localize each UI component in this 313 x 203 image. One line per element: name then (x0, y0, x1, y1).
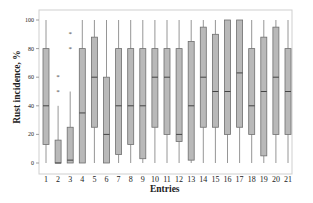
box-entry-11 (164, 20, 170, 163)
box (152, 49, 158, 128)
box-entry-12 (176, 20, 182, 163)
x-tick-label: 2 (56, 175, 60, 184)
box-entry-1 (43, 20, 49, 163)
box-entry-8 (128, 20, 134, 163)
box (176, 49, 182, 142)
x-tick-label: 8 (129, 175, 133, 184)
box (237, 20, 243, 127)
x-tick-label: 11 (163, 175, 171, 184)
x-axis-label: Entries (150, 184, 180, 194)
box (273, 27, 279, 134)
box-entry-20 (273, 20, 279, 163)
box (67, 127, 73, 163)
box-entry-21 (285, 20, 291, 163)
box-plot: 020406080100 123456789101112131415161718… (0, 0, 313, 203)
x-tick-label: 20 (272, 175, 280, 184)
y-tick-label: 0 (31, 160, 34, 166)
outlier-marker: * (56, 88, 60, 96)
boxes: **** (43, 20, 291, 163)
x-axis: 123456789101112131415161718192021 (44, 175, 292, 184)
box (55, 140, 61, 163)
x-tick-label: 9 (141, 175, 145, 184)
y-axis: 020406080100 (25, 17, 39, 166)
box (164, 49, 170, 135)
y-tick-label: 20 (28, 131, 34, 137)
x-tick-label: 3 (68, 175, 72, 184)
x-tick-label: 15 (211, 175, 219, 184)
box-entry-5 (91, 20, 97, 163)
box (225, 20, 231, 134)
box-entry-17 (237, 20, 243, 163)
x-tick-label: 5 (92, 175, 96, 184)
x-tick-label: 13 (187, 175, 195, 184)
box-entry-4 (79, 20, 85, 163)
x-tick-label: 12 (175, 175, 183, 184)
box (140, 49, 146, 159)
box-entry-2: ** (55, 73, 61, 163)
x-tick-label: 10 (151, 175, 159, 184)
outlier-marker: * (68, 30, 72, 38)
y-tick-label: 100 (25, 17, 34, 23)
box (128, 49, 134, 145)
box (91, 37, 97, 127)
x-tick-label: 1 (44, 175, 48, 184)
box-entry-14 (200, 20, 206, 163)
x-tick-label: 6 (105, 175, 109, 184)
box-entry-13 (188, 20, 194, 163)
box (188, 41, 194, 160)
outlier-marker: * (68, 45, 72, 53)
y-tick-label: 60 (28, 74, 34, 80)
box-entry-9 (140, 20, 146, 163)
box-entry-6 (104, 20, 110, 163)
box (249, 49, 255, 135)
box (261, 37, 267, 156)
box-entry-15 (212, 20, 218, 163)
x-tick-label: 21 (284, 175, 292, 184)
x-tick-label: 18 (248, 175, 256, 184)
outlier-marker: * (56, 73, 60, 81)
box (79, 49, 85, 163)
box-entry-10 (152, 20, 158, 163)
y-tick-label: 40 (28, 103, 34, 109)
x-tick-label: 19 (260, 175, 268, 184)
y-axis-label: Rust incidence, % (12, 32, 22, 142)
box (43, 49, 49, 145)
x-tick-label: 4 (80, 175, 84, 184)
box (212, 34, 218, 127)
box (116, 49, 122, 155)
box-entry-7 (116, 20, 122, 163)
box (104, 77, 110, 163)
box-entry-19 (261, 20, 267, 163)
x-tick-label: 16 (224, 175, 232, 184)
x-tick-label: 14 (199, 175, 207, 184)
x-tick-label: 17 (236, 175, 244, 184)
x-tick-label: 7 (117, 175, 121, 184)
box-entry-16 (225, 20, 231, 163)
y-tick-label: 80 (28, 46, 34, 52)
box-entry-18 (249, 20, 255, 163)
box-entry-3: ** (67, 30, 73, 163)
